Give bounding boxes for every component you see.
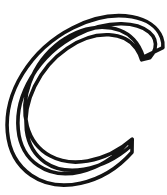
letter-c-outline-image <box>0 0 167 195</box>
artboard <box>0 0 167 195</box>
